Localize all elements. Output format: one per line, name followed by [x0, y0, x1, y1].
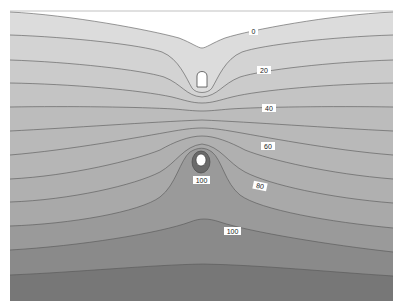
contour-label-100-center: 100	[193, 176, 210, 184]
contour-label-40: 40	[262, 104, 276, 112]
upper-opening	[197, 72, 207, 88]
contour-label-20: 20	[257, 66, 271, 74]
contour-plot: 0 20 40 60 80 100 100	[0, 0, 403, 305]
contour-label-100-right: 100	[224, 227, 241, 235]
contour-label-60: 60	[261, 142, 275, 150]
svg-text:100: 100	[196, 177, 208, 184]
svg-text:0: 0	[252, 28, 256, 35]
svg-text:100: 100	[227, 228, 239, 235]
contour-label-0: 0	[249, 27, 258, 35]
lower-opening	[192, 151, 210, 173]
svg-text:20: 20	[260, 67, 268, 74]
contour-bands	[10, 11, 393, 301]
svg-text:60: 60	[264, 143, 272, 150]
svg-text:40: 40	[265, 105, 273, 112]
